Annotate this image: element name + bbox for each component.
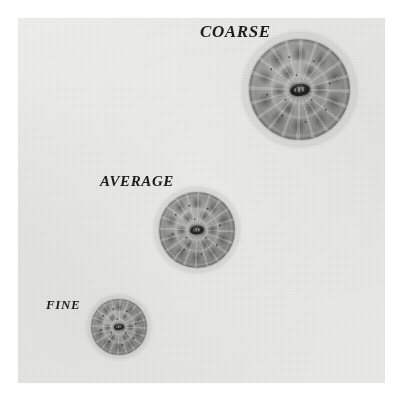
specimen-label-coarse: COARSE	[200, 22, 271, 42]
specimen-label-average: AVERAGE	[100, 173, 174, 190]
fiber-cross-section-fine	[88, 296, 150, 358]
specimen-label-fine: FINE	[46, 297, 80, 313]
scanned-plate: COARSE AVERAGE FINE	[18, 18, 385, 383]
figure-page: COARSE AVERAGE FINE	[0, 0, 409, 400]
fiber-cross-section-coarse	[243, 33, 356, 146]
fiber-cross-section-average	[155, 188, 239, 272]
specimen-group: COARSE AVERAGE FINE	[18, 18, 385, 383]
